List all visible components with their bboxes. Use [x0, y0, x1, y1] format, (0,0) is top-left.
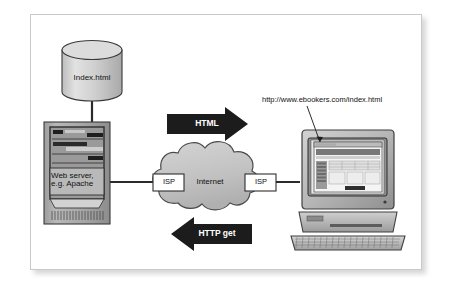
database-cylinder [62, 41, 122, 102]
keyboard [291, 236, 405, 250]
monitor-power-led [383, 200, 386, 203]
base-floppy-slot [330, 224, 382, 227]
browser-title-bar [314, 142, 382, 147]
server-label: Web server, e.g. Apache [51, 172, 109, 189]
diagram-figure: Index.html Web server, e.g. Apache Inter… [0, 0, 452, 295]
database-label: Index.html [61, 74, 123, 82]
database-top-ellipse [62, 41, 122, 60]
diagram-canvas [0, 0, 452, 295]
client-computer [291, 130, 405, 250]
isp-right-label: ISP [249, 178, 273, 186]
isp-left-label: ISP [157, 178, 181, 186]
browser-window [314, 142, 382, 192]
server-label-line2: e.g. Apache [51, 180, 109, 188]
computer-base-unit [299, 212, 397, 232]
html-arrow-label: HTML [186, 119, 228, 128]
base-drive-slot [307, 216, 323, 221]
browser-banner [316, 149, 380, 155]
http-get-arrow-label: HTTP get [190, 229, 244, 238]
cloud-label: Internet [182, 178, 238, 186]
url-annotation-text: http://www.ebookers.com/index.html [262, 96, 382, 104]
server-footer-bevel [50, 199, 104, 208]
